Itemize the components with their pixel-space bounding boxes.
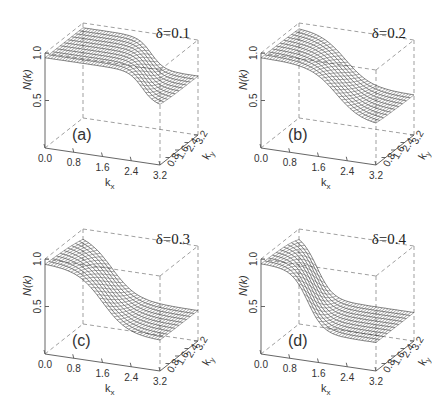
delta-label: δ=0.3 <box>156 231 190 247</box>
surface-plot: 1.00.5N(k)0.00.81.62.43.2kx0.81.62.43.2k… <box>216 206 432 412</box>
x-tick-label: 1.6 <box>312 368 326 379</box>
x-axis-label: kx <box>105 382 115 397</box>
z-tick-label: 0.5 <box>32 299 43 313</box>
x-tick-label: 0.0 <box>38 359 52 370</box>
x-tick-label: 2.4 <box>340 166 354 177</box>
panel-b: 1.00.5N(k)0.00.81.62.43.2kx0.81.62.43.2k… <box>216 0 432 206</box>
x-tick-label: 0.0 <box>254 359 268 370</box>
x-tick-label: 2.4 <box>340 372 354 383</box>
x-tick-label: 0.0 <box>254 153 268 164</box>
z-tick-label: 0.5 <box>32 93 43 107</box>
x-axis-label: kx <box>105 176 115 191</box>
surface-plot: 1.00.5N(k)0.00.81.62.43.2kx0.81.62.43.2k… <box>0 0 216 206</box>
x-tick-label: 0.8 <box>283 157 297 168</box>
x-axis-label: kx <box>321 176 331 191</box>
surface-plot: 1.00.5N(k)0.00.81.62.43.2kx0.81.62.43.2k… <box>0 206 216 412</box>
x-tick-label: 3.2 <box>369 376 383 387</box>
panel-label: (d) <box>288 332 308 349</box>
delta-label: δ=0.1 <box>156 25 190 41</box>
z-tick-label: 1.0 <box>248 252 259 266</box>
z-tick-label: 1.0 <box>32 46 43 60</box>
y-axis-label: ky <box>415 353 432 369</box>
delta-label: δ=0.2 <box>372 25 406 41</box>
x-tick-label: 1.6 <box>96 368 110 379</box>
panel-label: (b) <box>288 126 308 143</box>
x-tick-label: 0.8 <box>67 363 81 374</box>
x-tick-label: 0.8 <box>67 157 81 168</box>
z-axis-label: N(k) <box>237 275 249 296</box>
z-tick-label: 0.5 <box>248 299 259 313</box>
z-axis-label: N(k) <box>21 69 33 90</box>
z-tick-label: 1.0 <box>248 46 259 60</box>
y-axis-label: ky <box>199 353 216 369</box>
x-tick-label: 3.2 <box>153 170 167 181</box>
x-tick-label: 1.6 <box>312 162 326 173</box>
panel-label: (c) <box>72 332 91 349</box>
panel-label: (a) <box>72 126 92 143</box>
panel-c: 1.00.5N(k)0.00.81.62.43.2kx0.81.62.43.2k… <box>0 206 216 412</box>
x-tick-label: 1.6 <box>96 162 110 173</box>
z-tick-label: 0.5 <box>248 93 259 107</box>
panel-d: 1.00.5N(k)0.00.81.62.43.2kx0.81.62.43.2k… <box>216 206 432 412</box>
x-tick-label: 0.0 <box>38 153 52 164</box>
z-tick-label: 1.0 <box>32 252 43 266</box>
panel-a: 1.00.5N(k)0.00.81.62.43.2kx0.81.62.43.2k… <box>0 0 216 206</box>
z-axis-label: N(k) <box>21 275 33 296</box>
x-tick-label: 3.2 <box>369 170 383 181</box>
surface-plot: 1.00.5N(k)0.00.81.62.43.2kx0.81.62.43.2k… <box>216 0 432 206</box>
x-tick-label: 0.8 <box>283 363 297 374</box>
y-axis-label: ky <box>415 147 432 163</box>
x-tick-label: 3.2 <box>153 376 167 387</box>
x-tick-label: 2.4 <box>124 372 138 383</box>
delta-label: δ=0.4 <box>372 231 407 247</box>
z-axis-label: N(k) <box>237 69 249 90</box>
y-axis-label: ky <box>199 147 216 163</box>
x-tick-label: 2.4 <box>124 166 138 177</box>
x-axis-label: kx <box>321 382 331 397</box>
